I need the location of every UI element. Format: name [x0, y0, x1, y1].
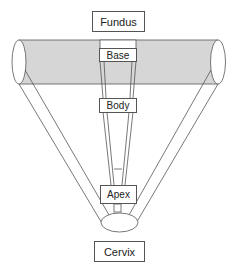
left-inner-wall [25, 70, 109, 215]
body-label: Body [99, 98, 137, 113]
right-inner-wall [129, 70, 211, 215]
cervix-label: Cervix [94, 241, 145, 262]
left-outer-wall [19, 84, 103, 225]
cervical-ellipse [101, 213, 138, 232]
right-cylinder-end [211, 40, 226, 84]
left-cylinder-end [12, 40, 26, 84]
base-label: Base [99, 48, 137, 62]
apex-label: Apex [100, 185, 137, 204]
fundus-label: Fundus [92, 11, 145, 32]
right-outer-wall [135, 84, 218, 225]
uterus-schematic-drawing [0, 0, 235, 273]
